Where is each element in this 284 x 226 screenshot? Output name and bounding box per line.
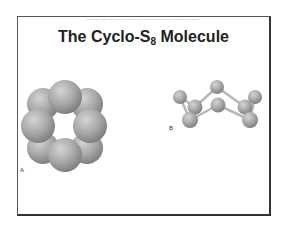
space-filling-model-icon <box>21 80 107 172</box>
ball-and-stick-model-icon <box>173 80 262 128</box>
molecule-illustrations <box>0 0 284 226</box>
